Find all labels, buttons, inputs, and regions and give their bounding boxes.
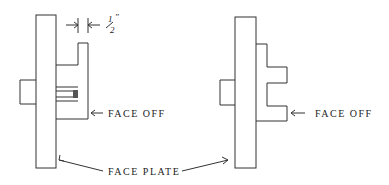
- svg-text:2: 2: [110, 25, 115, 35]
- right-figure: FACE OFF: [220, 17, 373, 168]
- face-plate-arrow-left: [59, 160, 103, 171]
- left-hub: [20, 80, 36, 104]
- face-plate-label: FACE PLATE: [108, 166, 180, 177]
- svg-text:": ": [115, 12, 119, 22]
- face-plate-arrow-right: [182, 160, 228, 171]
- face-off-label-left: FACE OFF: [108, 108, 166, 119]
- lathe-diagram: 1 2 " FACE OFF FACE PLATE FACE OFF: [0, 0, 389, 185]
- left-face-plate: [36, 15, 56, 168]
- left-workpiece: [56, 43, 88, 119]
- face-off-label-right: FACE OFF: [315, 108, 373, 119]
- hatch-insert: [73, 90, 78, 98]
- right-workpiece: [256, 44, 287, 121]
- left-figure: 1 2 " FACE OFF: [20, 12, 166, 168]
- right-face-plate: [235, 17, 256, 168]
- right-hub: [220, 80, 235, 105]
